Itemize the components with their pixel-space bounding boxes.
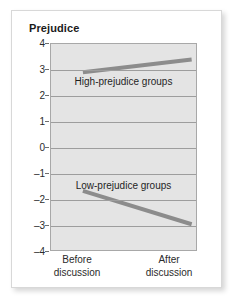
x-tick-label-line2: discussion: [138, 267, 200, 280]
series-annotation: Low-prejudice groups: [76, 179, 172, 190]
y-tick-label: –3: [15, 220, 45, 231]
y-tick-label: 2: [15, 90, 45, 101]
y-tick-mark: [45, 173, 49, 174]
series-line: [83, 191, 192, 224]
y-tick-mark: [45, 121, 49, 122]
x-tick-label: Beforediscussion: [46, 254, 108, 279]
y-tick-mark: [45, 225, 49, 226]
y-tick-mark: [45, 147, 49, 148]
y-tick-label: 0: [15, 142, 45, 153]
gridline: [51, 174, 196, 175]
y-tick-label: –1: [15, 168, 45, 179]
plot-area: [50, 43, 197, 251]
y-tick-label: 1: [15, 116, 45, 127]
gridline: [51, 148, 196, 149]
gridline: [51, 200, 196, 201]
y-axis: 43210–1–2–3–4: [12, 43, 45, 251]
y-tick-mark: [45, 95, 49, 96]
gridline: [51, 96, 196, 97]
page-title: Prejudice: [29, 22, 79, 34]
gridline: [51, 226, 196, 227]
series-annotation: High-prejudice groups: [75, 75, 173, 86]
y-tick-mark: [45, 69, 49, 70]
x-tick-label: Afterdiscussion: [138, 254, 200, 279]
y-tick-mark: [45, 251, 49, 252]
figure-card: Prejudice 43210–1–2–3–4 High-prejudice g…: [11, 10, 222, 288]
x-tick-label-line2: discussion: [46, 267, 108, 280]
y-tick-label: –2: [15, 194, 45, 205]
gridline: [51, 70, 196, 71]
x-tick-label-line1: After: [138, 254, 200, 267]
y-tick-label: 4: [15, 38, 45, 49]
y-tick-mark: [45, 43, 49, 44]
x-tick-label-line1: Before: [46, 254, 108, 267]
y-tick-mark: [45, 199, 49, 200]
gridline: [51, 122, 196, 123]
y-tick-label: 3: [15, 64, 45, 75]
y-tick-label: –4: [15, 246, 45, 257]
